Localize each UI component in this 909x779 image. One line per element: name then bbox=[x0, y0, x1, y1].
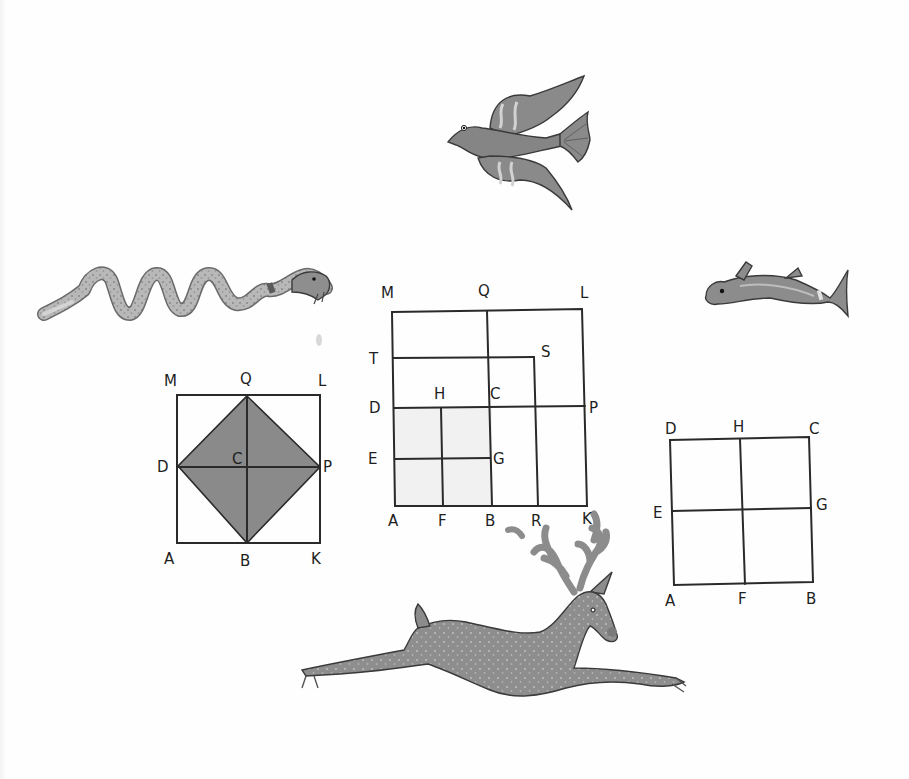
point-label-m: M bbox=[381, 284, 394, 302]
point-label-a: A bbox=[665, 592, 676, 610]
point-label-f: F bbox=[738, 590, 747, 608]
stray-mark bbox=[316, 334, 322, 346]
point-label-r: R bbox=[531, 512, 541, 530]
point-label-p: P bbox=[589, 399, 598, 417]
point-label-b: B bbox=[240, 552, 250, 570]
deer-illustration bbox=[302, 514, 686, 696]
page: M Q L D C P A B K M Q L T S D H bbox=[0, 0, 909, 779]
point-label-t: T bbox=[368, 350, 379, 368]
point-label-f: F bbox=[438, 512, 447, 530]
snake-illustration bbox=[44, 272, 330, 314]
bird-illustration bbox=[448, 76, 590, 210]
point-label-d: D bbox=[665, 420, 677, 438]
diagram-middle: M Q L T S D H C P E G A F B R K bbox=[368, 282, 598, 530]
point-label-h: H bbox=[434, 385, 445, 403]
point-label-e: E bbox=[653, 504, 662, 522]
point-label-q: Q bbox=[240, 370, 252, 388]
illustration-canvas: M Q L D C P A B K M Q L T S D H bbox=[0, 0, 909, 779]
line-eg bbox=[395, 458, 490, 459]
point-label-c: C bbox=[809, 420, 819, 438]
point-label-l: L bbox=[580, 284, 589, 302]
point-label-l: L bbox=[318, 372, 327, 390]
point-label-e: E bbox=[368, 450, 377, 468]
line-hf bbox=[740, 439, 745, 584]
line-sr bbox=[534, 357, 538, 506]
diagram-left: M Q L D C P A B K bbox=[157, 370, 332, 570]
line-ts bbox=[393, 357, 534, 358]
point-label-b: B bbox=[806, 590, 816, 608]
point-label-q: Q bbox=[478, 282, 490, 300]
point-label-p: P bbox=[323, 458, 332, 476]
point-label-a: A bbox=[164, 550, 175, 568]
point-label-g: G bbox=[493, 450, 505, 468]
point-label-h: H bbox=[733, 418, 744, 436]
point-label-d: D bbox=[157, 458, 169, 476]
point-label-s: S bbox=[541, 343, 551, 361]
point-label-g: G bbox=[816, 496, 828, 514]
point-label-c: C bbox=[232, 450, 242, 468]
point-label-a: A bbox=[388, 512, 399, 530]
fish-illustration bbox=[706, 262, 848, 316]
point-label-d: D bbox=[369, 399, 381, 417]
line-dp bbox=[394, 406, 585, 408]
point-label-c: C bbox=[490, 385, 500, 403]
point-label-k: K bbox=[582, 510, 593, 528]
point-label-m: M bbox=[164, 372, 177, 390]
point-label-b: B bbox=[485, 512, 495, 530]
diagram-right: D H C E G A F B bbox=[653, 418, 828, 610]
point-label-k: K bbox=[311, 550, 322, 568]
shaded-diamond bbox=[178, 396, 320, 543]
